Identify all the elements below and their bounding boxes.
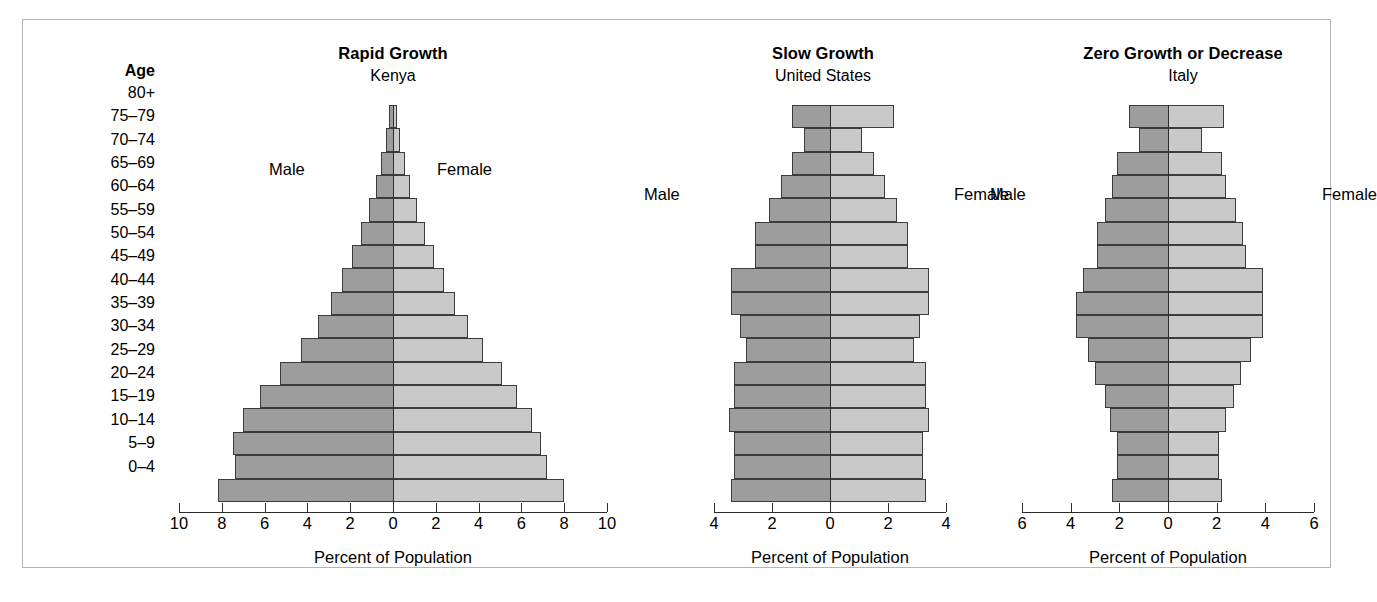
bar-male (755, 245, 831, 268)
x-axis-tick (1265, 503, 1266, 512)
bar-female (830, 432, 923, 455)
bar-male (1088, 338, 1169, 361)
bar-male (243, 408, 394, 431)
x-axis-tick-label: 2 (1197, 514, 1237, 533)
bar-male (729, 408, 832, 431)
panel-subtitle: United States (638, 67, 1008, 85)
bar-male (804, 128, 831, 151)
x-axis-line (179, 512, 607, 513)
bar-male (1139, 128, 1169, 151)
bar-male (235, 455, 394, 478)
x-axis-tick-label: 4 (1051, 514, 1091, 533)
bar-female (830, 198, 897, 221)
bar-female (393, 315, 468, 338)
panel-subtitle: Italy (998, 67, 1368, 85)
x-axis-tick-label: 4 (287, 514, 327, 533)
bar-male (1083, 268, 1169, 291)
bar-female (1168, 479, 1222, 502)
x-axis-tick-label: 10 (587, 514, 627, 533)
bar-male (1117, 432, 1169, 455)
bar-female (1168, 268, 1263, 291)
bar-male (731, 292, 831, 315)
x-axis-tick-label: 2 (330, 514, 370, 533)
bar-male (746, 338, 831, 361)
bar-female (1168, 432, 1219, 455)
panel-rapid-growth: Rapid Growth Kenya MaleFemale10864202468… (133, 20, 653, 569)
bar-female (393, 292, 455, 315)
bar-male (1105, 385, 1169, 408)
x-axis-tick (265, 503, 266, 512)
bar-female (830, 268, 929, 291)
x-axis-line (1022, 512, 1314, 513)
x-axis-tick-label: 6 (245, 514, 285, 533)
bar-female (830, 408, 929, 431)
x-axis-tick (393, 503, 394, 512)
bar-female (393, 432, 541, 455)
panel-slow-growth: Slow Growth United States MaleFemale4202… (638, 20, 1008, 569)
bar-male (734, 362, 831, 385)
bar-female (1168, 362, 1241, 385)
x-axis-tick (436, 503, 437, 512)
bar-female (830, 455, 923, 478)
x-axis-tick-label: 8 (202, 514, 242, 533)
bar-female (393, 455, 547, 478)
x-axis-tick (1168, 503, 1169, 512)
male-label: Male (269, 160, 305, 179)
figure-frame: Age 80+75–7970–7465–6960–6455–5950–5445–… (22, 19, 1331, 568)
x-axis-tick (1314, 503, 1315, 512)
bar-female (1168, 292, 1263, 315)
x-axis-tick (307, 503, 308, 512)
bar-female (1168, 222, 1243, 245)
bar-female (830, 292, 929, 315)
panel-title: Slow Growth (638, 44, 1008, 63)
pyramid-plot-kenya: MaleFemale1086420246810Percent of Popula… (179, 105, 607, 513)
x-axis-tick-label: 2 (416, 514, 456, 533)
x-axis-tick (564, 503, 565, 512)
x-axis-tick-label: 4 (694, 514, 734, 533)
panel-title: Rapid Growth (133, 44, 653, 63)
bar-male (318, 315, 394, 338)
bar-female (393, 222, 425, 245)
bar-male (361, 222, 394, 245)
bar-female (830, 222, 908, 245)
bar-male (769, 198, 831, 221)
x-axis-tick (946, 503, 947, 512)
bar-male (755, 222, 831, 245)
bar-female (1168, 245, 1246, 268)
x-axis-title: Percent of Population (179, 548, 607, 567)
bar-female (1168, 198, 1236, 221)
panel-zero-growth: Zero Growth or Decrease Italy MaleFemale… (998, 20, 1368, 569)
pyramid-plot-united-states: MaleFemale42024Percent of Population (714, 105, 946, 513)
bar-female (830, 315, 920, 338)
bar-female (1168, 105, 1224, 128)
center-axis-line (830, 105, 831, 513)
bar-female (830, 175, 885, 198)
bar-female (1168, 152, 1222, 175)
bar-male (1097, 222, 1169, 245)
bar-male (781, 175, 831, 198)
bar-female (830, 362, 926, 385)
x-axis-tick (1119, 503, 1120, 512)
bar-female (393, 198, 417, 221)
bar-female (393, 385, 517, 408)
bar-female (830, 152, 874, 175)
x-axis-tick (888, 503, 889, 512)
bar-male (1112, 175, 1169, 198)
bar-male (352, 245, 394, 268)
bar-female (1168, 385, 1234, 408)
bar-female (1168, 175, 1226, 198)
center-axis-line (393, 105, 394, 513)
bar-female (830, 245, 908, 268)
x-axis-tick (714, 503, 715, 512)
bar-female (1168, 128, 1202, 151)
bar-female (393, 175, 410, 198)
bar-female (393, 245, 434, 268)
bar-male (731, 479, 831, 502)
bar-male (731, 268, 831, 291)
x-axis-tick-label: 6 (1294, 514, 1334, 533)
x-axis-title: Percent of Population (714, 548, 946, 567)
bar-female (393, 128, 400, 151)
x-axis-tick-label: 6 (501, 514, 541, 533)
bar-male (792, 152, 831, 175)
bar-female (1168, 315, 1263, 338)
